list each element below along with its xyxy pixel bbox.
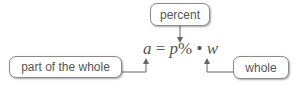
var-p: p — [170, 39, 179, 58]
label-percent: percent — [150, 3, 210, 26]
arrow-part-to-a — [122, 61, 146, 72]
var-w: w — [207, 39, 218, 58]
label-whole-text: whole — [245, 61, 276, 75]
percent-sign: % — [178, 39, 192, 58]
label-percent-text: percent — [160, 8, 200, 22]
equals-sign: = — [152, 39, 170, 58]
percent-equation: a = p% • w — [143, 39, 218, 59]
arrow-whole-to-w — [207, 61, 233, 72]
label-part-of-the-whole: part of the whole — [9, 56, 122, 78]
label-part-text: part of the whole — [21, 60, 110, 74]
multiply-dot: • — [192, 39, 206, 58]
label-whole: whole — [233, 56, 289, 79]
var-a: a — [143, 39, 152, 58]
